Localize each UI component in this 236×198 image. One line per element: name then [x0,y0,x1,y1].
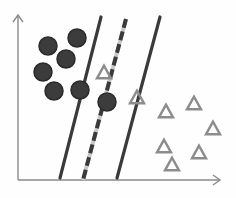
triangle-point [97,66,111,79]
circle-point [39,37,57,55]
circle-point [34,63,52,81]
margin-right-line [117,17,160,178]
triangle-point [157,140,171,153]
triangle-point [206,122,220,135]
triangle-point [159,105,173,118]
circle-point [68,29,86,47]
triangle-point [187,97,201,110]
class-a-points [34,29,116,111]
circle-point [71,81,89,99]
circle-point [45,82,63,100]
circle-point [98,93,116,111]
diagram-canvas [0,0,236,198]
circle-point [57,50,75,68]
triangle-point [192,146,206,159]
triangle-point [165,158,179,171]
svm-diagram [0,0,236,198]
class-b-points [97,66,220,171]
